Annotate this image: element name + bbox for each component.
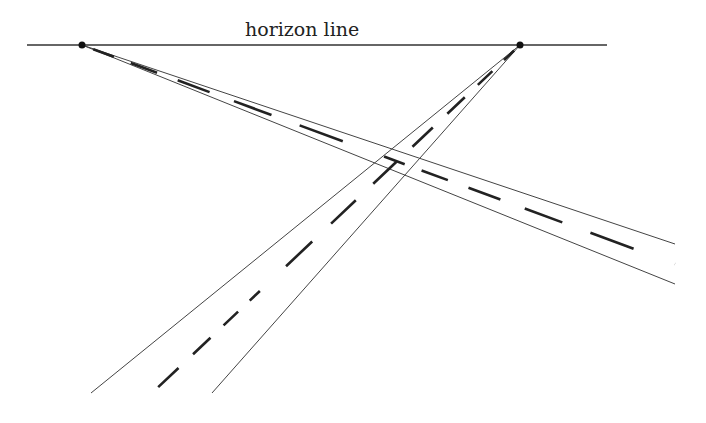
center-dashes (152, 45, 520, 393)
road-edge (82, 45, 675, 284)
road-left-vp (82, 45, 675, 284)
center-dashes (82, 45, 675, 264)
horizon-label: horizon line (245, 18, 359, 40)
road-edge (82, 45, 675, 244)
right-vanishing-point-dot (517, 42, 524, 49)
left-vanishing-point-dot (79, 42, 86, 49)
perspective-diagram: horizon line (0, 0, 706, 423)
road-edge (212, 45, 520, 393)
road-edge (91, 45, 520, 393)
road-right-vp (91, 45, 520, 393)
